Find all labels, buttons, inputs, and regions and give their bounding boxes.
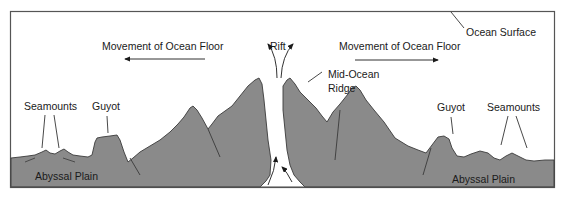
ocean-surface-leader	[451, 12, 464, 28]
guyot-leader	[451, 117, 453, 134]
diagram-canvas: Ocean Surface Movement of Ocean Floor Ri…	[0, 0, 566, 201]
ocean-surface-label: Ocean Surface	[466, 26, 536, 38]
right-crust-profile	[283, 78, 554, 187]
seamounts-left-label: Seamounts	[24, 100, 77, 112]
seamount-leader	[42, 115, 45, 148]
ridge-leader	[308, 72, 322, 82]
seamounts-right-label: Seamounts	[487, 101, 540, 113]
rift-label: Rift	[270, 40, 286, 52]
magma-up-arrow-right	[282, 167, 292, 182]
movement-right-label: Movement of Ocean Floor	[339, 40, 461, 52]
guyot-right-label: Guyot	[437, 101, 465, 113]
guyot-left-label: Guyot	[92, 100, 120, 112]
abyssal-plain-left-label: Abyssal Plain	[35, 170, 98, 182]
seamount-leader	[516, 116, 527, 148]
movement-left-label: Movement of Ocean Floor	[102, 40, 224, 52]
mid-ocean-ridge-label-line1: Mid-Ocean	[328, 68, 380, 80]
seamount-leader	[501, 116, 508, 145]
sea-floor-spreading-diagram: Ocean Surface Movement of Ocean Floor Ri…	[0, 0, 566, 201]
seamount-leader	[54, 115, 59, 148]
mid-ocean-ridge-label-line2: Ridge	[328, 82, 356, 94]
guyot-leader	[107, 116, 108, 133]
abyssal-plain-right-label: Abyssal Plain	[452, 173, 515, 185]
